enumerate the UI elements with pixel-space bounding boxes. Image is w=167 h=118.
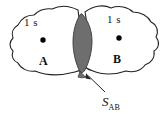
orbital-overlap-figure: 1 s 1 s A B SAB [0, 0, 167, 118]
orbital-b-outline [84, 6, 158, 74]
overlap-subscript: AB [109, 103, 121, 112]
overlap-arrowhead-icon [86, 73, 91, 80]
overlap-leader-line [89, 76, 106, 92]
orbital-a-shell-label: 1 s [24, 17, 38, 28]
nucleus-dot-a [40, 37, 45, 42]
overlap-integral-label: SAB [102, 95, 120, 112]
orbital-a-atom-label: A [39, 55, 48, 67]
orbital-b-shell-label: 1 s [107, 14, 121, 25]
orbital-b-atom-label: B [113, 53, 121, 65]
nucleus-dot-b [116, 35, 121, 40]
